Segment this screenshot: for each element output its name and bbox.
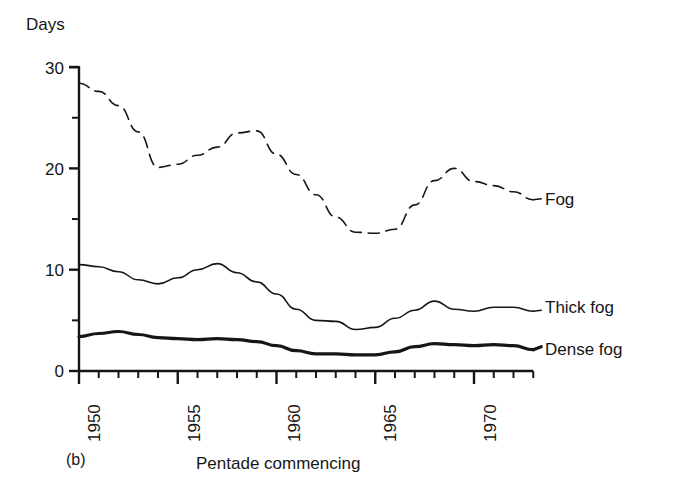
- x-tick-label-1955: 1955: [186, 404, 203, 442]
- series-leader-fog: [533, 199, 541, 200]
- x-tick-label-1950: 1950: [86, 404, 103, 442]
- y-tick-label-20: 20: [24, 161, 64, 178]
- panel-letter: (b): [66, 452, 86, 468]
- series-leader-dense-fog: [533, 347, 541, 350]
- series-label-dense-fog: Dense fog: [545, 341, 623, 358]
- x-tick-label-1965: 1965: [382, 404, 399, 442]
- x-tick-label-1960: 1960: [286, 404, 303, 442]
- series-label-thick-fog: Thick fog: [545, 299, 614, 316]
- series-leader-thick-fog: [533, 310, 541, 311]
- series-line-fog: [79, 83, 533, 233]
- series-line-thick-fog: [79, 264, 533, 330]
- y-tick-label-0: 0: [24, 363, 64, 380]
- y-tick-label-30: 30: [24, 60, 64, 77]
- y-tick-label-10: 10: [24, 262, 64, 279]
- series-line-dense-fog: [79, 332, 533, 355]
- figure-fog-days: Days 30 20 10 0 1950 1955 1960 1965 1970…: [0, 0, 674, 496]
- x-axis-title: Pentade commencing: [196, 455, 360, 472]
- series-label-fog: Fog: [545, 191, 574, 208]
- x-tick-label-1970: 1970: [482, 404, 499, 442]
